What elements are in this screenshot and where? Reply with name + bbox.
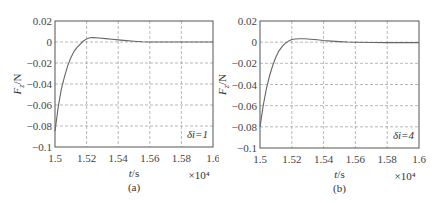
x-tick-label: 1.52 (282, 153, 301, 165)
x-axis-label: t/s (334, 168, 344, 180)
line-chart-b: 1.51.521.541.561.581.60.020−0.02−0.04−0.… (205, 0, 439, 203)
chart-panel-b: 1.51.521.541.561.581.60.020−0.02−0.04−0.… (205, 0, 424, 203)
panel-label: (b) (333, 182, 346, 195)
y-tick-label: −0.06 (27, 99, 53, 111)
x-multiplier: ×10⁴ (394, 170, 415, 182)
chart-panel-a: 1.51.521.541.561.581.60.020−0.02−0.04−0.… (0, 0, 219, 203)
x-tick-label: 1.58 (172, 152, 192, 164)
line-chart-a: 1.51.521.541.561.581.60.020−0.02−0.04−0.… (0, 0, 219, 203)
y-tick-label: −0.08 (27, 120, 53, 132)
y-tick-label: −0.1 (32, 141, 52, 153)
y-tick-label: 0 (252, 36, 258, 48)
y-tick-label: −0.04 (232, 79, 258, 91)
x-tick-label: 1.56 (140, 152, 160, 164)
x-tick-label: 1.58 (378, 153, 398, 165)
y-tick-label: −0.08 (232, 121, 258, 133)
y-tick-label: 0.02 (33, 15, 52, 27)
delta-i-annotation: δi=4 (393, 129, 415, 141)
y-tick-label: −0.06 (232, 100, 258, 112)
x-tick-label: 1.6 (412, 153, 426, 165)
y-tick-label: −0.1 (237, 142, 257, 154)
x-tick-label: 1.5 (48, 152, 62, 164)
panel-label: (a) (128, 181, 141, 194)
y-axis-label: Fz/N (11, 74, 26, 96)
y-tick-label: −0.04 (27, 78, 53, 90)
y-tick-label: 0 (47, 36, 53, 48)
y-axis-label: Fz/N (216, 74, 231, 96)
x-tick-label: 1.5 (253, 153, 267, 165)
x-tick-label: 1.54 (314, 153, 334, 165)
x-tick-label: 1.56 (346, 153, 366, 165)
y-tick-label: −0.02 (232, 57, 257, 69)
x-tick-label: 1.52 (77, 152, 96, 164)
x-tick-label: 1.54 (109, 152, 129, 164)
y-tick-label: 0.02 (238, 15, 257, 27)
x-axis-label: t/s (129, 167, 139, 179)
y-tick-label: −0.02 (27, 57, 52, 69)
